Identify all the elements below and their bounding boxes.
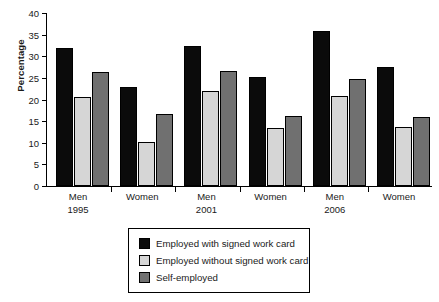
bar — [220, 71, 237, 186]
bar — [120, 87, 137, 186]
bar — [92, 72, 109, 186]
legend-swatch-icon — [139, 238, 150, 249]
chart-legend: Employed with signed work card Employed … — [128, 228, 310, 293]
bar — [56, 48, 73, 186]
bar — [331, 96, 348, 186]
y-tick-label: 0 — [34, 181, 39, 192]
y-tick-label: 20 — [28, 94, 39, 105]
legend-label: Employed with signed work card — [156, 238, 295, 249]
bar — [138, 142, 155, 186]
x-axis-category-label: Men2001 — [174, 191, 238, 216]
legend-swatch-icon — [139, 255, 150, 266]
bar — [285, 116, 302, 186]
y-tick-mark — [42, 186, 47, 187]
y-tick-label: 5 — [34, 159, 39, 170]
bar — [156, 114, 173, 186]
bar-chart: Percentage 0510152025303540 Men1995Women… — [0, 0, 439, 302]
bar — [184, 46, 201, 186]
bar-group — [240, 13, 304, 186]
bar — [202, 91, 219, 186]
plot-area: 0510152025303540 — [46, 13, 432, 187]
y-axis-title: Percentage — [15, 16, 26, 116]
bar-group — [175, 13, 239, 186]
bar-group — [47, 13, 111, 186]
legend-item-self-employed: Self-employed — [139, 269, 301, 286]
bar — [377, 67, 394, 186]
legend-label: Employed without signed work card — [156, 255, 308, 266]
y-tick-label: 10 — [28, 137, 39, 148]
y-tick-label: 25 — [28, 72, 39, 83]
x-axis-category-label: Men1995 — [46, 191, 110, 216]
x-axis-category-label: Women — [367, 191, 431, 216]
x-axis-category-label: Women — [110, 191, 174, 216]
x-axis-labels: Men1995WomenMen2001WomenMen2006Women — [46, 191, 431, 216]
y-tick-label: 30 — [28, 51, 39, 62]
bar — [313, 31, 330, 186]
y-tick-label: 35 — [28, 29, 39, 40]
bar-group — [304, 13, 368, 186]
legend-swatch-icon — [139, 272, 150, 283]
bar — [267, 128, 284, 186]
bar — [413, 117, 430, 186]
y-tick-label: 15 — [28, 116, 39, 127]
legend-label: Self-employed — [156, 272, 218, 283]
bar — [249, 77, 266, 186]
bar — [349, 79, 366, 186]
bar-group — [111, 13, 175, 186]
bar-groups — [47, 13, 432, 186]
x-axis-category-label: Women — [239, 191, 303, 216]
bar — [395, 127, 412, 186]
legend-item-employed-without-card: Employed without signed work card — [139, 252, 301, 269]
bar-group — [368, 13, 432, 186]
x-axis-category-label: Men2006 — [303, 191, 367, 216]
y-tick-label: 40 — [28, 8, 39, 19]
legend-item-employed-with-card: Employed with signed work card — [139, 235, 301, 252]
bar — [74, 97, 91, 186]
